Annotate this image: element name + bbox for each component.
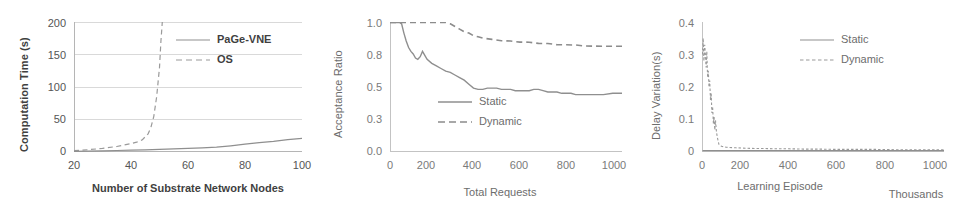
x-axis-title-delay-variation: Learning Episode	[737, 180, 823, 192]
legend-item-static: Static	[438, 96, 522, 107]
legend-label: Dynamic	[841, 54, 884, 65]
x-axis-units-label: Thousands	[889, 188, 943, 200]
chart-panel-delay-variation: Delay Variation(s) 0.4 0.3 0.2 0.1 0 Sta…	[640, 0, 968, 212]
y-tick-label: 0.2	[660, 82, 694, 93]
x-tick-label: 200	[417, 160, 435, 171]
legend-label: Static	[841, 34, 869, 45]
y-tick-label: 1.0	[342, 18, 382, 29]
legend-delay-variation: Static Dynamic	[800, 34, 884, 65]
x-tick-label: 100	[293, 160, 311, 171]
legend-swatch-solid-icon	[176, 36, 210, 44]
y-axis-title-delay-variation: Delay Variation(s)	[650, 52, 662, 140]
x-axis-title-acceptance-ratio: Total Requests	[464, 186, 537, 198]
series-line-dynamic	[390, 23, 622, 47]
series-line-static	[390, 23, 622, 95]
legend-swatch-solid-icon	[438, 98, 472, 106]
x-tick-label: 60	[182, 160, 194, 171]
y-tick-label: 100	[26, 82, 66, 93]
legend-item-os: OS	[176, 54, 271, 65]
x-tick-label: 20	[68, 160, 80, 171]
x-tick-label: 400	[779, 160, 797, 171]
legend-acceptance-ratio: Static Dynamic	[438, 96, 522, 127]
legend-swatch-dashed-icon	[800, 56, 834, 64]
x-tick-label: 40	[125, 160, 137, 171]
x-tick-label: 1000	[923, 160, 947, 171]
legend-label: Dynamic	[479, 116, 522, 127]
legend-item-dynamic: Dynamic	[438, 116, 522, 127]
x-tick-label: 800	[557, 160, 575, 171]
y-tick-label: 0.1	[660, 114, 694, 125]
chart-panel-acceptance-ratio: Acceptance Ratio 1.0 0.8 0.5 0.3 0.0 Sta…	[320, 0, 640, 212]
x-tick-label: 600	[827, 160, 845, 171]
y-tick-label: 0.4	[660, 18, 694, 29]
y-tick-label: 0	[26, 146, 66, 157]
y-tick-label: 50	[26, 114, 66, 125]
y-tick-label: 0.5	[342, 82, 382, 93]
legend-swatch-solid-icon	[800, 36, 834, 44]
figure-row: Computation Time (s) 200 150 100 50 0	[0, 0, 968, 212]
chart-panel-computation-time: Computation Time (s) 200 150 100 50 0	[0, 0, 320, 212]
y-tick-label: 150	[26, 50, 66, 61]
x-tick-label: 0	[387, 160, 393, 171]
y-tick-label: 0.0	[342, 146, 382, 157]
x-tick-label: 600	[510, 160, 528, 171]
legend-item-static: Static	[800, 34, 884, 45]
series-line-page-vne	[74, 138, 302, 151]
legend-computation-time: PaGe-VNE OS	[176, 34, 271, 65]
legend-label: Static	[479, 96, 507, 107]
x-tick-label: 400	[463, 160, 481, 171]
legend-label: PaGe-VNE	[217, 34, 271, 45]
x-tick-label: 800	[876, 160, 894, 171]
x-tick-label: 80	[239, 160, 251, 171]
legend-label: OS	[217, 54, 233, 65]
plot-area-acceptance-ratio	[390, 22, 622, 152]
series-line-os	[74, 22, 162, 151]
y-tick-label: 0	[660, 146, 694, 157]
x-tick-label: 1000	[602, 160, 626, 171]
x-tick-label: 0	[699, 160, 705, 171]
x-axis-title-computation-time: Number of Substrate Network Nodes	[92, 182, 284, 194]
legend-item-dynamic: Dynamic	[800, 54, 884, 65]
x-tick-label: 200	[731, 160, 749, 171]
legend-swatch-dashed-icon	[176, 56, 210, 64]
y-tick-label: 200	[26, 18, 66, 29]
plot-svg-acceptance-ratio	[390, 22, 622, 152]
legend-swatch-dashed-icon	[438, 118, 472, 126]
y-tick-label: 0.8	[342, 50, 382, 61]
y-tick-label: 0.3	[660, 50, 694, 61]
y-tick-label: 0.3	[342, 114, 382, 125]
legend-item-page-vne: PaGe-VNE	[176, 34, 271, 45]
